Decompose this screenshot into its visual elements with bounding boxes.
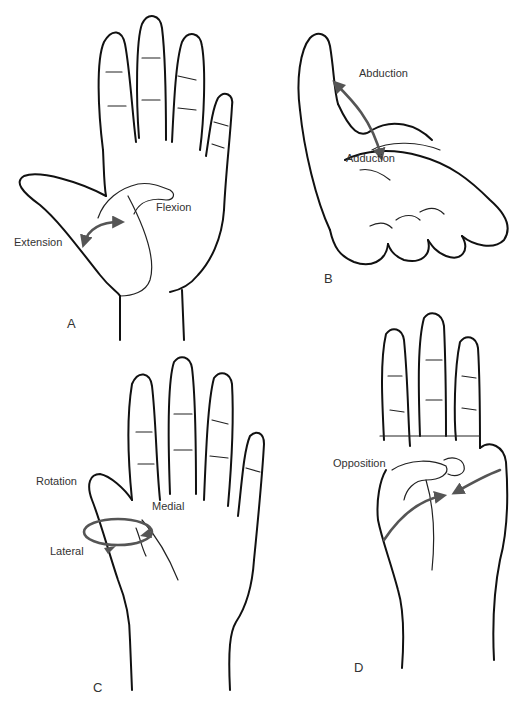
label-rotation: Rotation	[36, 475, 77, 487]
label-lateral: Lateral	[50, 545, 84, 557]
panel-letter-d: D	[354, 660, 363, 675]
thumb-movements-illustration	[0, 0, 524, 712]
flexion-extension-arrow	[84, 222, 120, 243]
panel-a-hand-drawing	[20, 16, 233, 340]
panel-letter-c: C	[93, 680, 102, 695]
rotation-arrow	[84, 519, 152, 554]
label-abduction: Abduction	[359, 67, 408, 79]
opposition-arrows	[384, 470, 500, 540]
label-medial: Medial	[152, 500, 184, 512]
label-adduction: Adduction	[346, 152, 395, 164]
label-opposition: Opposition	[333, 457, 386, 469]
panel-c-hand-drawing	[89, 357, 264, 690]
panel-letter-a: A	[67, 316, 76, 331]
label-extension: Extension	[14, 236, 62, 248]
label-flexion: Flexion	[156, 201, 191, 213]
panel-d-hand-drawing	[377, 313, 507, 668]
panel-letter-b: B	[324, 271, 333, 286]
abduction-adduction-arrow	[336, 84, 381, 156]
